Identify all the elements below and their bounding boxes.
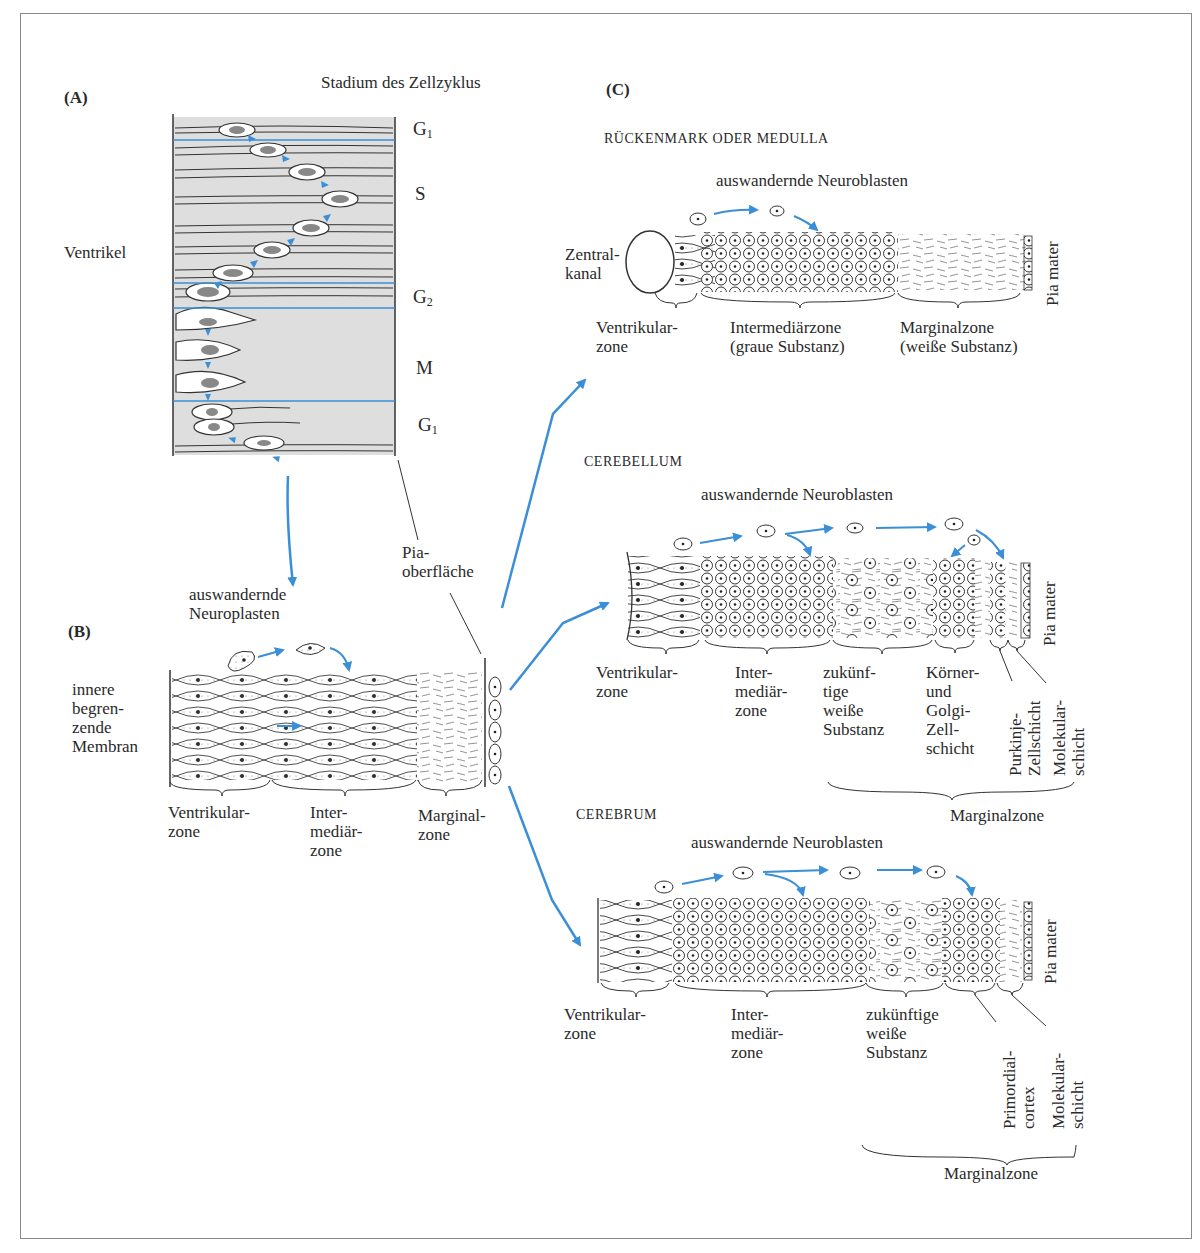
panelB-zone-marginal: Marginal-zone [418,806,486,844]
cerebrum-title: CEREBRUM [576,807,657,823]
spinal-drawing [626,206,1032,308]
arrow-b-to-spinal [502,380,585,608]
cerebrum-zone-future-white: zukünftigeweißeSubstanz [866,1005,939,1062]
phase-g1-top: G1 [413,118,433,141]
panelA-title: Stadium des Zellzyklus [321,73,481,92]
membrane-label: innerebegren-zendeMembran [72,680,138,756]
panelB-zone-intermediate: Inter-mediär-zone [310,803,363,860]
cerebellum-zone-future-white: zukünf-tigeweißeSubstanz [823,663,884,739]
cerebrum-pia-mater-label: Pia mater [1041,919,1060,984]
arrow-b-to-cerebellum [510,603,608,690]
panelB-label: (B) [68,622,91,641]
central-canal-label: Zentral-kanal [565,245,620,283]
cerebrum-molecular-label: Molekular-schicht [1049,1053,1087,1129]
cerebellum-zone-granule-golgi: Körner-undGolgi-Zell-schicht [926,663,979,758]
cerebellum-zone-ventricular: Ventrikular-zone [596,663,678,701]
phase-g2: G2 [413,286,433,309]
cerebrum-marginal-group-label: Marginalzone [944,1164,1038,1183]
panelC-label: (C) [606,80,630,99]
spinal-pia-mater-label: Pia mater [1043,241,1062,306]
spinal-zone-intermediate: Intermediärzone(graue Substanz) [730,318,845,356]
phase-g1-bottom: G1 [418,414,438,437]
cerebellum-pia-mater-label: Pia mater [1040,581,1059,646]
arrow-b-to-cerebrum [509,786,580,945]
pia-surface-label: Pia-oberfläche [402,543,474,581]
cerebrum-migrating-label: auswandernde Neuroblasten [691,833,883,852]
cerebellum-migrating-label: auswandernde Neuroblasten [701,485,893,504]
cerebrum-zone-ventricular: Ventrikular-zone [564,1005,646,1043]
cerebellum-title: CEREBELLUM [584,454,682,470]
cerebellum-marginal-group-label: Marginalzone [950,806,1044,825]
cerebellum-zone-intermediate: Inter-mediär-zone [735,663,788,720]
cerebrum-primordial-cortex-label: Primordial-cortex [1000,1051,1038,1129]
arrow-a-to-b [288,476,293,585]
cerebrum-zone-intermediate: Inter-mediär-zone [731,1005,784,1062]
panelB-drawing [170,643,501,796]
panelB-migrating-label: auswanderndeNeuroplasten [189,585,286,623]
phase-m: M [416,357,433,378]
ventricle-label: Ventrikel [64,243,126,262]
panelB-zone-ventricular: Ventrikular-zone [168,803,250,841]
cerebellum-molecular-label: Molekular-schicht [1050,700,1088,776]
cerebellum-purkinje-label: Purkinje-Zellschicht [1006,700,1044,776]
spinal-migrating-label: auswandernde Neuroblasten [716,171,908,190]
panelA-drawing [173,114,395,462]
spinal-zone-ventricular: Ventrikular-zone [596,318,678,356]
spinal-zone-marginal: Marginalzone(weiße Substanz) [900,318,1018,356]
spinal-title: RÜCKENMARK ODER MEDULLA [604,131,829,147]
panelA-label: (A) [64,88,88,107]
phase-s: S [415,183,426,204]
